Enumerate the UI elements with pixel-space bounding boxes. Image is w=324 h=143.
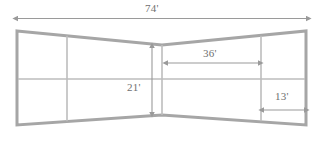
floorplan-svg <box>0 0 324 143</box>
floorplan-diagram: 74' 36' 21' 13' <box>0 0 324 143</box>
dimension-label-overall-width: 74' <box>145 2 159 14</box>
dimension-label-right-section-width: 36' <box>203 47 217 59</box>
dimension-label-right-bay-width: 13' <box>275 90 289 102</box>
dimension-label-center-height: 21' <box>127 81 141 93</box>
